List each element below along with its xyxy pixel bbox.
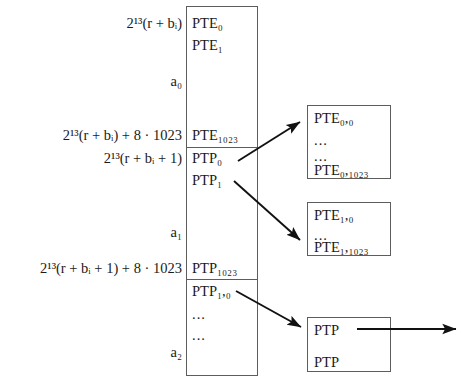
target-box-pte0-line-1: ... xyxy=(314,133,328,148)
target-box-ptp-line-1: PTP xyxy=(314,355,339,370)
column-cell-ptp0: PTP₀ xyxy=(192,151,222,166)
target-box-pte0-line-0: PTE₀,₀ xyxy=(314,111,354,126)
address-label-a2: a₂ xyxy=(171,345,183,360)
column-divider-2 xyxy=(186,279,258,280)
address-label-pte0: 2¹³(r + bᵢ) xyxy=(127,16,182,31)
page-table-diagram: 2¹³(r + bᵢ) a₀ 2¹³(r + bᵢ) + 8 · 1023 2¹… xyxy=(0,0,461,382)
column-cell-pte0: PTE₀ xyxy=(192,16,223,31)
target-box-pte1-line-0: PTE₁,₀ xyxy=(314,208,354,223)
target-box-pte1-line-2: PTE₁,₁₀₂₃ xyxy=(314,240,369,255)
address-label-ptp0: 2¹³(r + bᵢ + 1) xyxy=(104,151,182,166)
column-cell-ellipsis-2: ... xyxy=(192,328,206,343)
column-cell-ptp1023: PTP₁₀₂₃ xyxy=(192,261,237,276)
target-box-pte0-line-3: PTE₀,₁₀₂₃ xyxy=(314,163,369,178)
column-cell-ptp1: PTP₁ xyxy=(192,173,222,188)
address-label-a1: a₁ xyxy=(171,225,183,240)
column-cell-pte1023: PTE₁₀₂₃ xyxy=(192,128,238,143)
address-label-a0: a₀ xyxy=(171,74,183,89)
column-cell-pte1: PTE₁ xyxy=(192,38,223,53)
address-label-pte1023: 2¹³(r + bᵢ) + 8 · 1023 xyxy=(63,128,182,143)
address-label-ptp1023: 2¹³(r + bᵢ + 1) + 8 · 1023 xyxy=(40,261,182,276)
column-cell-ptp1-0: PTP₁,₀ xyxy=(192,284,231,299)
target-box-ptp-line-0: PTP xyxy=(314,323,339,338)
column-divider-1 xyxy=(186,147,258,148)
column-cell-ellipsis-1: ... xyxy=(192,307,206,322)
